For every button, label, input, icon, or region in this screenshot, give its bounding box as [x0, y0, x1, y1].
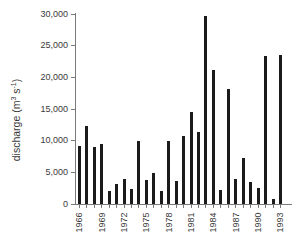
x-tick-label-1966: 1966: [74, 210, 85, 236]
x-tick-label-1975: 1975: [141, 210, 152, 236]
y-tick-label-10000: 10,000: [26, 135, 68, 146]
bar-1977: [160, 191, 163, 204]
x-tick-1985: [220, 205, 221, 208]
bar-1966: [78, 146, 81, 204]
bar-1973: [130, 189, 133, 204]
bar-1980: [182, 136, 185, 204]
x-tick-1968: [94, 205, 95, 208]
x-tick-1984: [213, 205, 214, 208]
x-tick-1989: [250, 205, 251, 208]
bar-1989: [249, 182, 252, 204]
x-tick-1987: [235, 205, 236, 208]
y-axis-title-text: discharge (m: [10, 101, 22, 162]
x-tick-1967: [86, 205, 87, 208]
bar-1967: [85, 126, 88, 204]
x-tick-label-1984: 1984: [208, 210, 219, 236]
y-axis-title-unit-s: s: [10, 88, 22, 96]
x-tick-1982: [198, 205, 199, 208]
bar-1982: [197, 132, 200, 204]
y-tick-label-20000: 20,000: [26, 72, 68, 83]
x-tick-1975: [146, 205, 147, 208]
bar-1988: [242, 158, 245, 204]
x-tick-1986: [228, 205, 229, 208]
bar-1968: [93, 147, 96, 204]
discharge-bar-chart: discharge (m3 s-1) 05,00010,00015,00020,…: [0, 0, 298, 238]
x-tick-label-1981: 1981: [186, 210, 197, 236]
x-tick-1971: [116, 205, 117, 208]
bar-1985: [219, 190, 222, 204]
x-tick-label-1990: 1990: [253, 210, 264, 236]
x-tick-1970: [109, 205, 110, 208]
y-tick-label-0: 0: [26, 199, 68, 210]
bar-1978: [167, 141, 170, 204]
bar-1981: [190, 112, 193, 204]
x-tick-1976: [153, 205, 154, 208]
x-tick-1974: [138, 205, 139, 208]
x-tick-1983: [205, 205, 206, 208]
plot-area: [76, 14, 292, 204]
x-tick-label-1978: 1978: [163, 210, 174, 236]
bar-1986: [227, 89, 230, 204]
bar-1974: [137, 141, 140, 204]
y-axis-title-superscript-cubed: 3: [10, 97, 17, 101]
y-axis-title-close-paren: ): [10, 79, 22, 83]
x-tick-1988: [243, 205, 244, 208]
x-tick-1992: [273, 205, 274, 208]
bar-1970: [108, 191, 111, 204]
bar-1984: [212, 70, 215, 204]
bar-1987: [234, 179, 237, 204]
y-tick-label-30000: 30,000: [26, 9, 68, 20]
bar-1979: [175, 181, 178, 204]
x-tick-1973: [131, 205, 132, 208]
bar-1991: [264, 56, 267, 204]
x-tick-1991: [265, 205, 266, 208]
x-tick-1978: [168, 205, 169, 208]
bar-1976: [152, 173, 155, 204]
x-tick-1972: [124, 205, 125, 208]
bar-1983: [204, 16, 207, 204]
x-tick-1990: [258, 205, 259, 208]
y-axis-title: discharge (m3 s-1): [9, 60, 23, 180]
x-tick-label-1972: 1972: [119, 210, 130, 236]
x-tick-label-1987: 1987: [230, 210, 241, 236]
bar-1990: [257, 188, 260, 204]
y-axis-title-superscript-inverse: -1: [10, 82, 17, 88]
y-tick-label-15000: 15,000: [26, 104, 68, 115]
x-tick-1966: [79, 205, 80, 208]
x-tick-label-1993: 1993: [275, 210, 286, 236]
bar-1993: [279, 55, 282, 204]
bar-1972: [123, 179, 126, 204]
bar-1992: [272, 199, 275, 204]
y-tick-label-25000: 25,000: [26, 40, 68, 51]
x-tick-label-1969: 1969: [96, 210, 107, 236]
bar-1969: [100, 144, 103, 204]
bar-1975: [145, 180, 148, 204]
bar-1971: [115, 184, 118, 204]
x-tick-1980: [183, 205, 184, 208]
y-tick-label-5000: 5,000: [26, 167, 68, 178]
x-tick-1979: [176, 205, 177, 208]
x-tick-1969: [101, 205, 102, 208]
x-tick-1981: [191, 205, 192, 208]
x-tick-1977: [161, 205, 162, 208]
x-tick-1993: [280, 205, 281, 208]
